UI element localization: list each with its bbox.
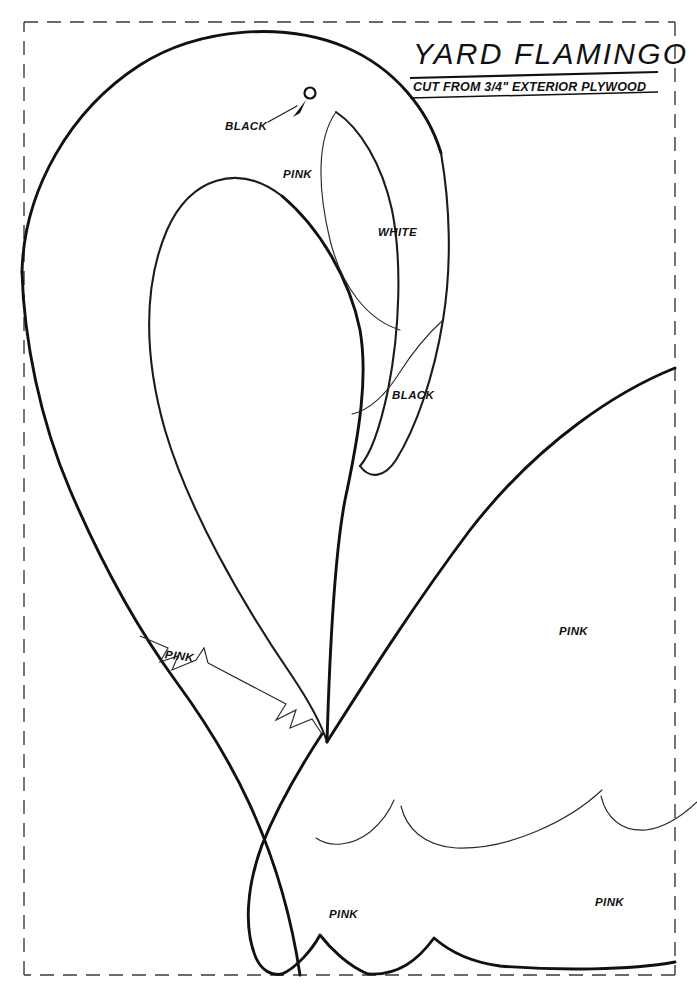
eye-callout-group: [268, 88, 316, 123]
sheet-border-frame: [24, 22, 675, 975]
breast-contour: [248, 734, 322, 974]
label-white-beak: WHITE: [378, 226, 417, 238]
flamingo-pattern-drawing: [0, 0, 697, 1001]
pattern-sheet: YARD FLAMINGO CUT FROM 3/4" EXTERIOR PLY…: [0, 0, 697, 1001]
page-subtitle: CUT FROM 3/4" EXTERIOR PLYWOOD: [413, 80, 646, 94]
eye-circle: [305, 88, 316, 99]
title-underline: [410, 72, 658, 78]
leader-arrow-head-icon: [293, 100, 306, 117]
feather-scallop-3: [601, 796, 697, 830]
break-line-span: [208, 663, 322, 734]
feather-scallop-1: [316, 800, 394, 844]
label-pink-body: PINK: [559, 625, 588, 637]
page-title: YARD FLAMINGO: [413, 37, 688, 71]
label-pink-rear: PINK: [595, 896, 624, 908]
flamingo-body-outline: [22, 32, 441, 975]
label-pink-tail: PINK: [329, 908, 358, 920]
beak-seam-upper: [321, 112, 400, 330]
beak-outer-edge: [360, 153, 449, 475]
feather-detail-lines: [316, 790, 697, 848]
label-black-beak: BLACK: [392, 389, 434, 401]
label-pink-head: PINK: [283, 168, 312, 180]
beak-group: [321, 112, 449, 475]
feather-scallop-2: [401, 790, 602, 848]
black-leader-line: [268, 106, 297, 122]
body-outline-group: [248, 368, 675, 974]
beak-inner-edge: [336, 112, 398, 466]
tail-bottom-contour: [282, 935, 675, 974]
label-black-eye: BLACK: [225, 120, 267, 132]
neck-rear-line: [282, 196, 363, 742]
